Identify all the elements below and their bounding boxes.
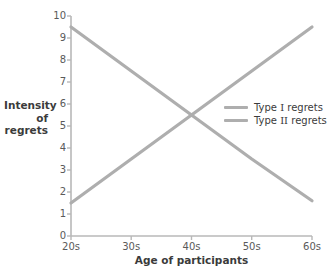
x-tick-40s: 40s [172,240,212,254]
legend-label-prefix: Type [254,115,280,126]
y-tick-label: 3 [50,165,66,175]
legend-label-numeral: II [280,115,288,126]
y-tick-label: 1 [50,209,66,219]
legend-item-type-ii: Type II regrets [224,114,327,127]
y-axis-title: Intensity of regrets [4,99,48,137]
legend-label-type-ii: Type II regrets [254,115,327,126]
x-tick-60s: 60s [292,240,332,254]
y-tick-label: 8 [50,55,66,65]
x-tick-label: 30s [111,240,151,254]
x-tick-30s: 30s [111,240,151,254]
y-axis-title-line-1: Intensity [4,99,48,112]
x-tick-50s: 50s [232,240,272,254]
x-tick-label: 20s [51,240,91,254]
y-tick-label: 2 [50,187,66,197]
y-tick-label: 5 [50,121,66,131]
x-tick-20s: 20s [51,240,91,254]
x-tick-label: 40s [172,240,212,254]
legend-label-type-i: Type I regrets [254,102,323,113]
legend-label-prefix: Type [254,102,280,113]
x-tick-label: 60s [292,240,332,254]
legend: Type I regrets Type II regrets [224,101,327,127]
legend-swatch-icon-type-ii [224,119,248,122]
x-tick-label: 50s [232,240,272,254]
y-tick-label: 10 [50,11,66,21]
y-axis-title-line-3: regrets [4,124,48,137]
y-tick-label: 4 [50,143,66,153]
y-tick-label: 9 [50,33,66,43]
y-axis-title-line-2: of [4,112,48,125]
y-tick-label: 7 [50,77,66,87]
regrets-line-chart: 0 1 2 3 4 5 6 7 8 9 10 20s 30s 40s 50s 6… [0,0,332,275]
x-axis-title: Age of participants [71,254,312,266]
legend-swatch-icon-type-i [224,106,248,109]
legend-label-suffix: regrets [288,115,327,126]
legend-label-suffix: regrets [284,102,323,113]
legend-item-type-i: Type I regrets [224,101,327,114]
